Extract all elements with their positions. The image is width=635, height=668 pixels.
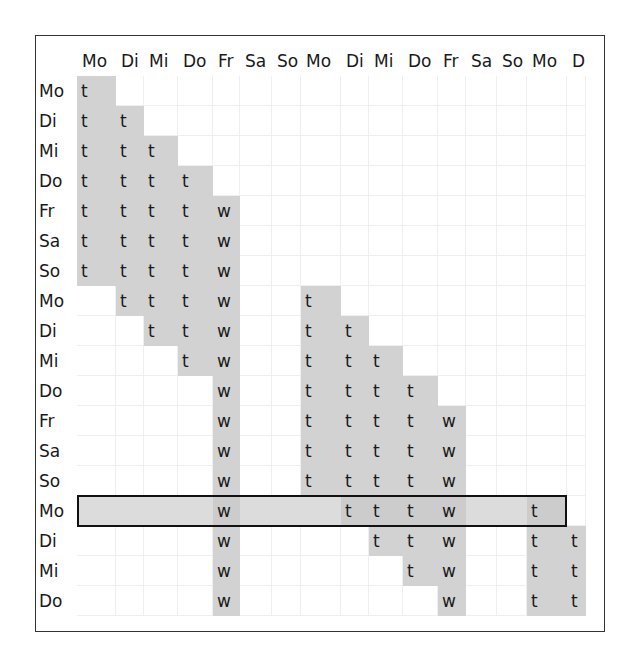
grid-cell[interactable]	[116, 586, 144, 616]
grid-cell[interactable]: t	[527, 526, 567, 556]
grid-cell[interactable]	[272, 136, 301, 166]
grid-cell[interactable]: t	[341, 496, 369, 526]
grid-cell[interactable]: t	[369, 376, 403, 406]
grid-cell[interactable]	[567, 466, 586, 496]
grid-cell[interactable]	[77, 286, 116, 316]
grid-cell[interactable]	[497, 586, 527, 616]
grid-cell[interactable]	[272, 586, 301, 616]
grid-cell[interactable]	[272, 436, 301, 466]
grid-cell[interactable]: t	[403, 466, 438, 496]
grid-cell[interactable]	[178, 586, 213, 616]
grid-cell[interactable]	[240, 106, 272, 136]
grid-cell[interactable]: w	[213, 316, 240, 346]
grid-cell[interactable]: w	[438, 556, 466, 586]
grid-cell[interactable]: t	[178, 166, 213, 196]
grid-cell[interactable]	[369, 226, 403, 256]
grid-cell[interactable]	[438, 316, 466, 346]
grid-cell[interactable]	[466, 436, 497, 466]
grid-cell[interactable]	[527, 406, 567, 436]
grid-cell[interactable]: t	[301, 436, 341, 466]
grid-cell[interactable]	[403, 226, 438, 256]
grid-cell[interactable]	[567, 346, 586, 376]
grid-cell[interactable]	[272, 226, 301, 256]
grid-cell[interactable]: t	[144, 256, 178, 286]
grid-cell[interactable]	[466, 406, 497, 436]
grid-cell[interactable]	[301, 136, 341, 166]
grid-cell[interactable]	[438, 106, 466, 136]
grid-cell[interactable]	[213, 106, 240, 136]
grid-cell[interactable]	[178, 406, 213, 436]
grid-cell[interactable]	[240, 226, 272, 256]
grid-cell[interactable]: w	[213, 376, 240, 406]
grid-cell[interactable]: t	[178, 316, 213, 346]
grid-cell[interactable]: t	[301, 286, 341, 316]
grid-cell[interactable]: t	[341, 376, 369, 406]
grid-cell[interactable]	[527, 376, 567, 406]
grid-cell[interactable]	[116, 346, 144, 376]
grid-cell[interactable]	[77, 316, 116, 346]
grid-cell[interactable]	[403, 346, 438, 376]
grid-cell[interactable]	[527, 166, 567, 196]
grid-cell[interactable]: t	[567, 556, 586, 586]
grid-cell[interactable]	[438, 256, 466, 286]
grid-cell[interactable]: w	[213, 346, 240, 376]
grid-cell[interactable]	[116, 466, 144, 496]
grid-cell[interactable]	[178, 436, 213, 466]
grid-cell[interactable]: t	[567, 526, 586, 556]
grid-cell[interactable]: t	[178, 256, 213, 286]
grid-cell[interactable]	[240, 316, 272, 346]
grid-cell[interactable]	[77, 586, 116, 616]
grid-cell[interactable]	[527, 436, 567, 466]
grid-cell[interactable]	[403, 286, 438, 316]
grid-cell[interactable]	[438, 76, 466, 106]
grid-cell[interactable]	[178, 556, 213, 586]
grid-cell[interactable]: w	[438, 406, 466, 436]
grid-cell[interactable]	[272, 376, 301, 406]
grid-cell[interactable]	[466, 106, 497, 136]
grid-cell[interactable]	[466, 586, 497, 616]
grid-cell[interactable]: t	[403, 406, 438, 436]
grid-cell[interactable]	[272, 256, 301, 286]
grid-cell[interactable]	[301, 76, 341, 106]
grid-cell[interactable]: t	[301, 466, 341, 496]
grid-cell[interactable]	[341, 526, 369, 556]
grid-cell[interactable]: t	[341, 316, 369, 346]
grid-cell[interactable]: w	[213, 256, 240, 286]
grid-cell[interactable]: t	[403, 376, 438, 406]
grid-cell[interactable]: t	[116, 256, 144, 286]
grid-cell[interactable]	[178, 136, 213, 166]
grid-cell[interactable]	[240, 526, 272, 556]
grid-cell[interactable]	[144, 496, 178, 526]
grid-cell[interactable]: t	[178, 346, 213, 376]
grid-cell[interactable]: t	[178, 226, 213, 256]
grid-cell[interactable]: t	[178, 196, 213, 226]
grid-cell[interactable]	[527, 286, 567, 316]
grid-cell[interactable]: t	[301, 406, 341, 436]
grid-cell[interactable]: t	[116, 166, 144, 196]
grid-cell[interactable]: t	[116, 106, 144, 136]
grid-cell[interactable]	[341, 556, 369, 586]
grid-cell[interactable]	[497, 256, 527, 286]
grid-cell[interactable]	[567, 106, 586, 136]
grid-cell[interactable]	[272, 316, 301, 346]
grid-cell[interactable]: t	[403, 526, 438, 556]
grid-cell[interactable]	[369, 256, 403, 286]
grid-cell[interactable]	[341, 106, 369, 136]
grid-cell[interactable]	[240, 556, 272, 586]
grid-cell[interactable]	[567, 286, 586, 316]
grid-cell[interactable]	[497, 376, 527, 406]
grid-cell[interactable]	[272, 556, 301, 586]
grid-cell[interactable]: t	[116, 136, 144, 166]
grid-cell[interactable]	[116, 376, 144, 406]
grid-cell[interactable]	[403, 196, 438, 226]
grid-cell[interactable]	[240, 256, 272, 286]
grid-cell[interactable]	[567, 226, 586, 256]
grid-cell[interactable]	[567, 406, 586, 436]
grid-cell[interactable]: t	[301, 346, 341, 376]
grid-cell[interactable]	[240, 406, 272, 436]
grid-cell[interactable]	[272, 526, 301, 556]
grid-cell[interactable]	[438, 346, 466, 376]
grid-cell[interactable]	[497, 316, 527, 346]
grid-cell[interactable]	[341, 586, 369, 616]
grid-cell[interactable]	[438, 376, 466, 406]
